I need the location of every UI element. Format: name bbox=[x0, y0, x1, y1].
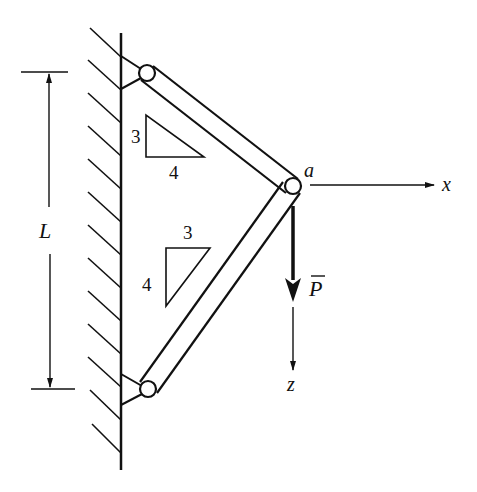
lower-bar bbox=[140, 182, 300, 393]
wall bbox=[88, 28, 121, 470]
wall-hatching bbox=[88, 28, 121, 453]
joint-a-pin bbox=[285, 178, 301, 194]
load-label: P bbox=[309, 278, 322, 300]
upper-slope-vertical: 3 bbox=[131, 127, 141, 146]
upper-bar bbox=[141, 66, 298, 193]
truss-diagram bbox=[0, 0, 477, 492]
x-axis-label: x bbox=[442, 174, 451, 194]
joint-a-label: a bbox=[304, 160, 314, 180]
upper-slope-horizontal: 4 bbox=[169, 163, 179, 182]
lower-slope-triangle bbox=[166, 248, 210, 306]
top-pin bbox=[139, 65, 155, 81]
lower-slope-horizontal: 3 bbox=[183, 223, 193, 242]
length-label: L bbox=[39, 220, 51, 242]
lower-slope-vertical: 4 bbox=[142, 275, 152, 294]
load-arrow bbox=[285, 206, 301, 302]
z-axis-label: z bbox=[287, 374, 295, 394]
bottom-support bbox=[121, 374, 142, 405]
bottom-pin bbox=[140, 381, 156, 397]
